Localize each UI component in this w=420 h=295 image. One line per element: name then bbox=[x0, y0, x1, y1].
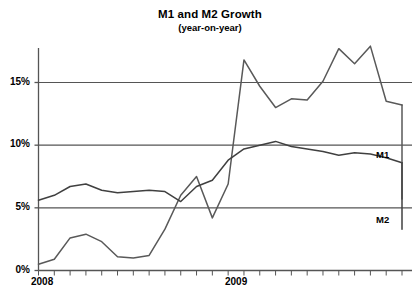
x-axis-tick-label-2008: 2008 bbox=[31, 276, 53, 287]
y-axis-tick-label-0: 0% bbox=[0, 264, 30, 275]
axes-group bbox=[39, 48, 413, 271]
series-label-m1: M1 bbox=[376, 149, 389, 160]
y-axis-tick-label-5: 5% bbox=[0, 201, 30, 212]
series-line-m1 bbox=[39, 46, 403, 264]
data-series-group bbox=[39, 46, 403, 264]
x-axis-tick-label-2009: 2009 bbox=[225, 276, 247, 287]
chart-container: M1 and M2 Growth (year-on-year) 15% 10% … bbox=[0, 0, 420, 295]
x-tick-marks-group bbox=[39, 271, 403, 276]
plot-area bbox=[0, 0, 420, 295]
y-axis-tick-label-10: 10% bbox=[0, 138, 30, 149]
series-line-m2 bbox=[39, 141, 403, 201]
y-axis-tick-label-15: 15% bbox=[0, 76, 30, 87]
series-label-m2: M2 bbox=[376, 214, 389, 225]
